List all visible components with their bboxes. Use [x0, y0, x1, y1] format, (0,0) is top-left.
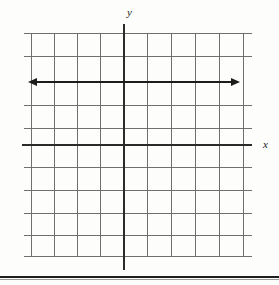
gridline-horizontal	[24, 128, 252, 129]
arrowhead-left-icon	[28, 78, 37, 86]
gridline-horizontal	[24, 105, 252, 106]
gridline-horizontal	[24, 33, 252, 34]
bottom-rule	[0, 276, 279, 278]
gridline-horizontal	[24, 256, 252, 257]
gridline-horizontal	[24, 235, 252, 236]
arrowhead-right-icon	[231, 78, 240, 86]
x-axis-label: x	[263, 139, 268, 150]
bottom-rule-thin	[0, 279, 279, 280]
gridline-horizontal	[24, 56, 252, 57]
y-axis-label: y	[127, 7, 132, 18]
gridline-horizontal	[24, 213, 252, 214]
x-axis	[22, 144, 252, 146]
gridline-horizontal	[24, 167, 252, 168]
gridline-horizontal	[24, 190, 252, 191]
graph-figure: y x	[0, 0, 279, 285]
plot-line-y-equals-2	[35, 81, 238, 83]
y-axis	[123, 24, 125, 270]
